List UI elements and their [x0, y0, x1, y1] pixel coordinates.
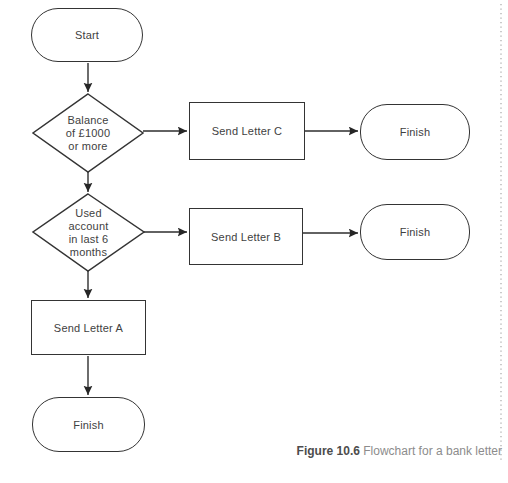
decision-balance-label: Balance of £1000 or more — [33, 93, 143, 173]
figure-caption-number: Figure 10.6 — [297, 444, 360, 458]
finish-terminator-a: Finish — [32, 397, 145, 452]
process-send-letter-b: Send Letter B — [189, 208, 303, 265]
finish-terminator-b: Finish — [360, 204, 470, 260]
figure-caption-text: Flowchart for a bank letter — [360, 444, 502, 458]
process-send-letter-c: Send Letter C — [189, 102, 305, 160]
start-terminator: Start — [31, 8, 143, 62]
finish-terminator-c: Finish — [360, 104, 470, 160]
finish-b-label: Finish — [400, 226, 431, 238]
send-letter-c-label: Send Letter C — [212, 125, 282, 137]
finish-c-label: Finish — [400, 126, 431, 138]
flowchart-figure: Start Balance of £1000 or more Send Lett… — [0, 0, 508, 483]
decision-used-account-label: Used account in last 6 months — [33, 194, 144, 271]
figure-caption: Figure 10.6 Flowchart for a bank letter — [297, 444, 502, 458]
start-label: Start — [75, 29, 99, 41]
process-send-letter-a: Send Letter A — [31, 300, 146, 355]
send-letter-a-label: Send Letter A — [54, 322, 123, 334]
send-letter-b-label: Send Letter B — [211, 231, 281, 243]
finish-a-label: Finish — [73, 419, 104, 431]
